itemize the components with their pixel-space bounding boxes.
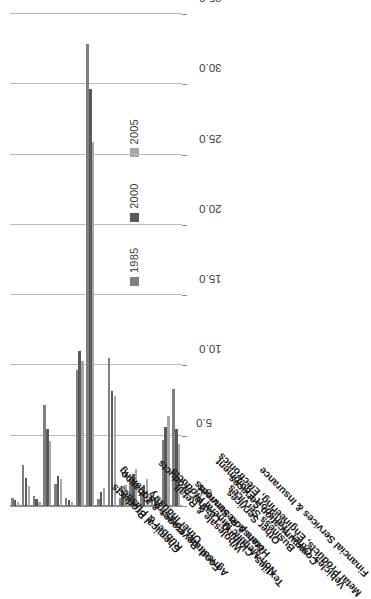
bar xyxy=(92,142,94,506)
bar xyxy=(135,469,137,506)
category-label: Financial Services & Insurance xyxy=(257,465,371,579)
tick-mark-15.0 xyxy=(182,295,187,296)
category-label: Business Services xyxy=(225,483,297,555)
bar xyxy=(49,441,51,506)
value-tick-label: 20.0 xyxy=(199,203,221,215)
tick-mark-30.0 xyxy=(182,84,187,85)
value-tick-label: 10.0 xyxy=(199,343,221,355)
tick-mark-5.0 xyxy=(182,436,187,437)
bar xyxy=(71,502,73,506)
bar xyxy=(114,396,116,506)
bar xyxy=(178,444,180,506)
category-label: Metal Products, Engineering, Electronics xyxy=(216,451,364,599)
value-tick-label: 5.0 xyxy=(196,417,212,429)
bar xyxy=(167,416,169,506)
bar xyxy=(38,502,40,506)
tick-mark-20.0 xyxy=(182,225,187,226)
value-tick-label: 15.0 xyxy=(199,273,221,285)
category-label: Vehicles, Other Transport Equipment xyxy=(213,457,347,591)
category-label: Communication Services xyxy=(226,473,320,567)
bar xyxy=(157,496,159,506)
value-tick-label: 35.0 xyxy=(199,0,221,4)
bar xyxy=(81,361,83,506)
value-tick-label: 30.0 xyxy=(199,62,221,74)
bar xyxy=(103,488,105,506)
bar-series-container xyxy=(10,15,182,506)
tick-mark-10.0 xyxy=(182,365,187,366)
bar xyxy=(17,502,19,506)
value-axis-labels: 0.05.010.015.020.025.030.035.0 xyxy=(188,15,228,507)
category-label: Other Services xyxy=(223,488,282,547)
tick-mark-35.0 xyxy=(182,14,187,15)
tick-mark-0.0 xyxy=(182,506,187,507)
value-tick-label: 25.0 xyxy=(199,132,221,144)
value-tick-label: 0.0 xyxy=(196,487,212,499)
bar xyxy=(146,479,148,506)
bar xyxy=(60,479,62,506)
plot-area xyxy=(10,15,182,507)
bar xyxy=(124,485,126,506)
tick-mark-25.0 xyxy=(182,155,187,156)
gridline-35.0 xyxy=(10,13,182,14)
bar xyxy=(28,486,30,506)
